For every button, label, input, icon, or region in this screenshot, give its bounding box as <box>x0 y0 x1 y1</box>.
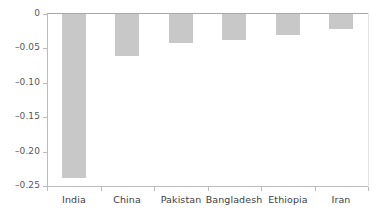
x-axis-tick <box>368 187 369 191</box>
x-axis-tick <box>208 187 209 191</box>
bar-ethiopia <box>276 14 300 35</box>
x-axis-tick <box>47 187 48 191</box>
bar-chart: 0–0.05–0.10–0.15–0.20–0.25 IndiaChinaPak… <box>0 0 379 214</box>
bar-iran <box>329 14 353 29</box>
x-axis-tick <box>101 187 102 191</box>
x-axis-label-india: India <box>62 194 86 205</box>
y-axis-tick <box>43 48 48 49</box>
y-axis-tick <box>43 117 48 118</box>
x-axis-tick <box>261 187 262 191</box>
y-axis-label: –0.25 <box>15 181 40 190</box>
bar-china <box>115 14 139 56</box>
x-axis-tick <box>154 187 155 191</box>
y-axis-label: –0.20 <box>15 147 40 156</box>
y-axis-label: –0.10 <box>15 78 40 87</box>
y-axis-tick <box>43 83 48 84</box>
y-axis-label: –0.15 <box>15 112 40 121</box>
plot-right-border <box>368 13 369 187</box>
y-axis-line <box>47 13 48 187</box>
y-axis-tick <box>43 14 48 15</box>
y-axis-label: –0.05 <box>15 43 40 52</box>
y-axis-label: 0 <box>34 9 40 18</box>
y-axis-tick <box>43 152 48 153</box>
x-axis-label-pakistan: Pakistan <box>161 194 202 205</box>
bar-india <box>62 14 86 178</box>
x-axis-label-ethiopia: Ethiopia <box>268 194 308 205</box>
x-axis-tick <box>315 187 316 191</box>
x-axis-label-china: China <box>113 194 141 205</box>
bar-bangladesh <box>222 14 246 40</box>
zero-baseline <box>47 13 368 14</box>
bar-pakistan <box>169 14 193 43</box>
x-axis-label-bangladesh: Bangladesh <box>206 194 263 205</box>
x-axis-label-iran: Iran <box>332 194 351 205</box>
